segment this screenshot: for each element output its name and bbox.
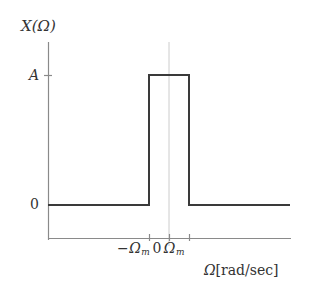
- x-tick-label-neg-omega-m: −Ωm: [117, 240, 150, 256]
- x-tick-label-zero: 0: [152, 240, 161, 256]
- x-axis-unit: [rad/sec]: [216, 262, 279, 278]
- y-axis-title: X(Ω): [21, 19, 56, 34]
- x-tick-label-omega-m: Ωm: [164, 240, 185, 256]
- subscript-m-right: m: [176, 247, 185, 257]
- omega-symbol-y-title: Ω: [38, 17, 50, 35]
- x-tick-labels: −Ωm0Ωm: [117, 241, 185, 255]
- y-tick-label-a: A: [29, 68, 39, 82]
- subscript-m-left: m: [141, 247, 150, 257]
- x-axis-title: Ω[rad/sec]: [204, 263, 279, 277]
- omega-symbol-x-title: Ω: [204, 262, 216, 278]
- figure-canvas: X(Ω) A 0 −Ωm0Ωm Ω[rad/sec]: [0, 0, 311, 290]
- y-tick-label-zero: 0: [30, 197, 39, 211]
